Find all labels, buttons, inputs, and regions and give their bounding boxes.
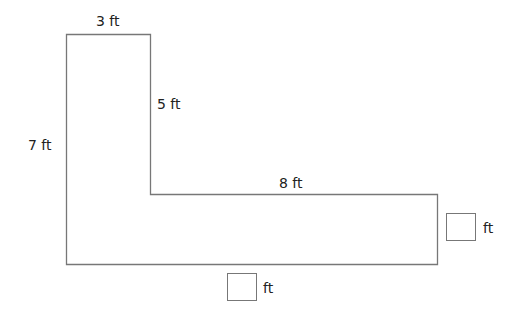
right-side-answer-input[interactable] — [446, 213, 476, 241]
l-shape-outline — [67, 35, 438, 265]
bottom-side-answer-input[interactable] — [227, 273, 257, 301]
bottom-side-unit: ft — [263, 280, 273, 296]
right-side-unit: ft — [483, 220, 493, 236]
l-shape-figure — [0, 0, 524, 319]
inner-horizontal-side-label: 8 ft — [279, 175, 303, 191]
inner-vertical-side-label: 5 ft — [157, 96, 181, 112]
left-side-label: 7 ft — [28, 137, 52, 153]
top-side-label: 3 ft — [96, 13, 120, 29]
